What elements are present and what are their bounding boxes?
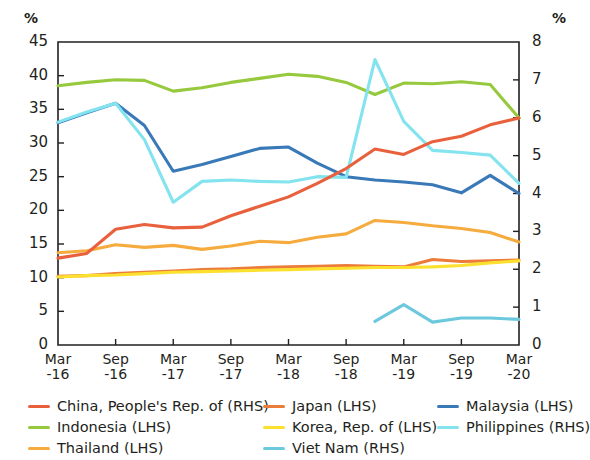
legend-item[interactable]: Thailand (LHS) <box>28 438 269 459</box>
x-tick-month: Mar <box>143 352 203 367</box>
legend-item[interactable]: Viet Nam (RHS) <box>263 438 437 459</box>
left-tick-30: 30 <box>29 133 48 151</box>
right-tick-0: 0 <box>532 335 542 353</box>
x-tick-month: Sep <box>86 352 146 367</box>
legend-label: China, People's Rep. of (RHS) <box>57 396 269 417</box>
legend-swatch-icon <box>28 447 50 450</box>
x-tick-year: -16 <box>28 367 88 382</box>
right-axis-unit-label: % <box>552 10 566 26</box>
x-tick-Mar-19: Mar-19 <box>374 352 434 382</box>
x-tick-month: Mar <box>489 352 549 367</box>
left-tick-45: 45 <box>29 32 48 50</box>
left-tick-15: 15 <box>29 234 48 252</box>
legend-item[interactable]: China, People's Rep. of (RHS) <box>28 396 269 417</box>
x-tick-Mar-20: Mar-20 <box>489 352 549 382</box>
legend-label: Korea, Rep. of (LHS) <box>292 417 437 438</box>
x-tick-Sep-17: Sep-17 <box>201 352 261 382</box>
legend-swatch-icon <box>263 447 285 450</box>
x-tick-year: -20 <box>489 367 549 382</box>
legend-swatch-icon <box>263 405 285 408</box>
legend-label: Indonesia (LHS) <box>57 417 171 438</box>
plot-frame <box>58 42 519 345</box>
x-tick-year: -18 <box>259 367 319 382</box>
x-tick-year: -17 <box>143 367 203 382</box>
left-tick-20: 20 <box>29 200 48 218</box>
legend-column-1: China, People's Rep. of (RHS)Indonesia (… <box>28 396 269 459</box>
left-tick-35: 35 <box>29 99 48 117</box>
legend-swatch-icon <box>437 405 459 408</box>
left-tick-10: 10 <box>29 268 48 286</box>
series-line <box>375 305 519 323</box>
legend-swatch-icon <box>28 405 50 408</box>
x-tick-month: Mar <box>259 352 319 367</box>
x-tick-month: Sep <box>431 352 491 367</box>
x-tick-Sep-16: Sep-16 <box>86 352 146 382</box>
chart-legend: China, People's Rep. of (RHS)Indonesia (… <box>0 396 574 460</box>
legend-item[interactable]: Indonesia (LHS) <box>28 417 269 438</box>
right-tick-5: 5 <box>532 146 542 164</box>
x-tick-Mar-18: Mar-18 <box>259 352 319 382</box>
left-tick-5: 5 <box>38 301 48 319</box>
x-tick-month: Sep <box>201 352 261 367</box>
legend-item[interactable]: Korea, Rep. of (LHS) <box>263 417 437 438</box>
legend-label: Philippines (RHS) <box>466 417 590 438</box>
data-series-lines <box>58 60 519 323</box>
legend-swatch-icon <box>437 426 459 429</box>
x-tick-month: Mar <box>28 352 88 367</box>
legend-column-3: Malaysia (LHS)Philippines (RHS) <box>437 396 590 438</box>
x-tick-year: -16 <box>86 367 146 382</box>
series-line <box>58 261 519 277</box>
right-tick-6: 6 <box>532 108 542 126</box>
right-tick-1: 1 <box>532 297 542 315</box>
x-tick-Sep-18: Sep-18 <box>316 352 376 382</box>
legend-label: Viet Nam (RHS) <box>292 438 405 459</box>
series-line <box>58 220 519 252</box>
right-tick-7: 7 <box>532 70 542 88</box>
right-tick-2: 2 <box>532 259 542 277</box>
x-tick-year: -17 <box>201 367 261 382</box>
legend-item[interactable]: Philippines (RHS) <box>437 417 590 438</box>
x-tick-Sep-19: Sep-19 <box>431 352 491 382</box>
legend-column-2: Japan (LHS)Korea, Rep. of (LHS)Viet Nam … <box>263 396 437 459</box>
legend-item[interactable]: Malaysia (LHS) <box>437 396 590 417</box>
legend-label: Thailand (LHS) <box>57 438 163 459</box>
x-tick-month: Sep <box>316 352 376 367</box>
x-tick-Mar-17: Mar-17 <box>143 352 203 382</box>
right-tick-4: 4 <box>532 184 542 202</box>
legend-label: Japan (LHS) <box>292 396 377 417</box>
x-tick-month: Mar <box>374 352 434 367</box>
legend-label: Malaysia (LHS) <box>466 396 573 417</box>
x-tick-Mar-16: Mar-16 <box>28 352 88 382</box>
left-tick-25: 25 <box>29 167 48 185</box>
legend-swatch-icon <box>28 426 50 429</box>
right-tick-8: 8 <box>532 32 542 50</box>
x-tick-year: -18 <box>316 367 376 382</box>
left-axis-unit-label: % <box>24 10 38 26</box>
legend-swatch-icon <box>263 426 285 429</box>
x-tick-year: -19 <box>374 367 434 382</box>
x-tick-year: -19 <box>431 367 491 382</box>
right-tick-3: 3 <box>532 221 542 239</box>
legend-item[interactable]: Japan (LHS) <box>263 396 437 417</box>
left-tick-40: 40 <box>29 66 48 84</box>
